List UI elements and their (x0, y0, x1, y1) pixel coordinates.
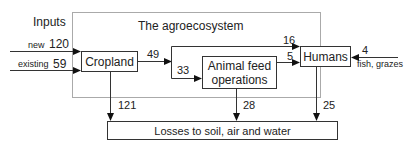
cropland-out-value: 49 (147, 49, 159, 60)
inputs-label: Inputs (33, 16, 66, 28)
to-feed-value: 33 (177, 65, 189, 76)
humans-node: Humans (301, 47, 350, 66)
feed-loss-value: 28 (243, 100, 255, 111)
feed-to-humans-value: 5 (287, 51, 293, 62)
new-input-value: 120 (49, 38, 69, 50)
fish-input-value: 4 (362, 45, 368, 56)
animal-feed-line1: Animal feed (208, 59, 271, 73)
cropland-node: Cropland (82, 52, 137, 71)
losses-node: Losses to soil, air and water (108, 122, 337, 139)
new-input-label: new (28, 41, 45, 50)
to-humans-top-value: 16 (283, 35, 295, 46)
cropland-loss-value: 121 (118, 100, 136, 111)
animal-feed-node: Animal feed operations (203, 57, 276, 88)
existing-input-value: 59 (53, 58, 66, 70)
agroecosystem-label: The agroecosystem (138, 20, 243, 32)
fish-input-label: fish, grazes (357, 60, 403, 69)
animal-feed-line2: operations (211, 73, 267, 87)
humans-loss-value: 25 (323, 100, 335, 111)
existing-input-label: existing (18, 60, 49, 69)
